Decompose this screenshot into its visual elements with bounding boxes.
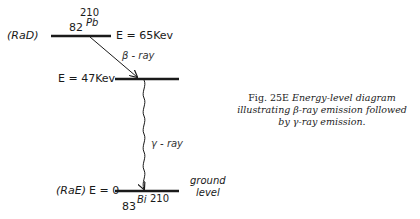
level-label: level (196, 187, 220, 198)
ground-label: ground (190, 175, 226, 186)
bi-symbol: Bi (137, 194, 147, 205)
pb-symbol: Pb (86, 17, 98, 28)
beta-ray-label: β - ray (122, 50, 155, 61)
rad-label: (RaD) (7, 29, 38, 42)
gamma-ray-label: γ - ray (151, 138, 183, 149)
energy-zero: E = 0 (89, 184, 119, 197)
figure-caption: Fig. 25E Energy-level diagram illustrati… (232, 92, 412, 128)
pb-atomic-number: 82 (69, 21, 83, 34)
gamma-ray-wavy-arrow (143, 80, 145, 189)
rae-label: (RaE) (56, 184, 86, 197)
bi-mass-number: 210 (150, 193, 169, 204)
energy-65kev: E = 65Kev (116, 29, 173, 42)
bi-atomic-number: 83 (122, 200, 136, 213)
energy-47kev: E = 47Kev (58, 72, 115, 85)
figure-number: Fig. 25E (248, 92, 289, 103)
